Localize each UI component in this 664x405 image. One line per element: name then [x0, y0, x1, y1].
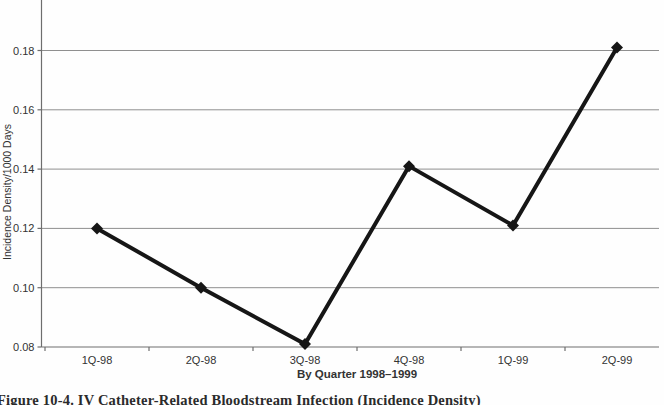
x-axis-title: By Quarter 1998–1999: [297, 368, 417, 380]
y-tick-label: 0.12: [13, 222, 34, 234]
x-tick-label: 2Q-99: [602, 354, 633, 366]
y-tick-label: 0.16: [13, 104, 34, 116]
data-series-line: [97, 48, 617, 345]
x-tick-label: 1Q-98: [82, 354, 113, 366]
x-tick-label: 1Q-99: [498, 354, 529, 366]
x-tick-label: 3Q-98: [290, 354, 321, 366]
line-chart: 0.080.100.120.140.160.181Q-982Q-983Q-984…: [0, 0, 664, 386]
x-tick-label: 2Q-98: [186, 354, 217, 366]
y-tick-label: 0.14: [13, 163, 34, 175]
figure-caption: Figure 10-4. IV Catheter-Related Bloodst…: [0, 391, 661, 405]
y-tick-label: 0.08: [13, 341, 34, 353]
y-axis-title: Incidence Density/1000 Days: [1, 124, 13, 260]
y-tick-label: 0.18: [13, 45, 34, 57]
figure-panel: 0.080.100.120.140.160.181Q-982Q-983Q-984…: [0, 0, 664, 405]
y-tick-label: 0.10: [13, 282, 34, 294]
x-tick-label: 4Q-98: [394, 354, 425, 366]
